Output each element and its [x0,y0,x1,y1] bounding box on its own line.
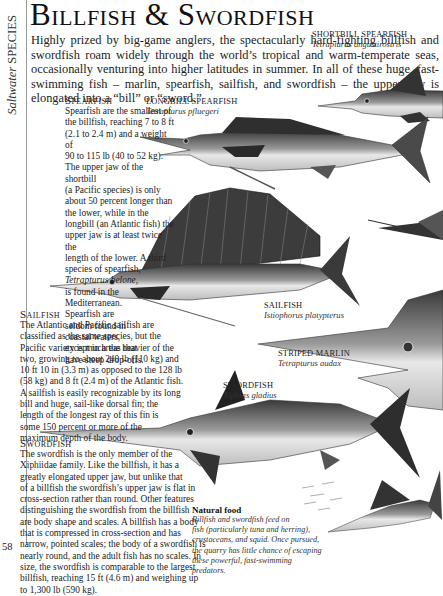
swordfish-heading: Swordfish [20,437,240,449]
natural-food-line: these powerful, fast-swimming predators. [192,556,322,576]
spearfish-line: about 50 percent longer than [65,196,175,207]
caption-longbill-spearfish: LONGBILL SPEARFISH Tetrapturus pfluegeri [146,97,237,116]
section-tab-italic: Saltwater [5,67,19,115]
caption-shortbill-spearfish: SHORTBILL SPEARFISH Tetrapturus angustir… [312,30,407,49]
caption-latin: Tetrapturus angustirostris [312,39,407,49]
caption-latin: Tetrapturus audax [278,358,350,368]
swordfish-line: of a billfish the swordfish’s upper jaw … [20,483,240,494]
natural-food-line: fish (particularly tuna and herring), [192,525,322,535]
caption-striped-marlin: STRIPED MARLIN Tetrapturus audax [278,349,350,368]
caption-latin: Istiophorus platypterus [264,310,344,320]
spearfish-line: species of spearfish, [65,264,175,275]
caption-latin: Xiphias gladius [223,390,277,400]
spearfish-line: the lower, while in the [65,208,175,219]
spearfish-line: upper jaw is at least twice the [65,230,175,253]
caption-name: LONGBILL SPEARFISH [146,97,237,106]
spearfish-line: (2.1 to 2.4 m) and a weight of [65,129,175,152]
swordfish-line: The swordfish is the only member of the [20,449,240,460]
sailfish-line: Pacific variety is much the heavier of t… [20,343,220,354]
caption-name: SWORDFISH [223,381,277,390]
caption-swordfish: SWORDFISH Xiphias gladius [223,381,277,400]
sailfish-line: A sailfish is easily recognizable by its… [20,388,220,399]
natural-food-caption: Natural food Billfish and swordfish feed… [192,505,322,576]
sailfish-line: bill and huge, sail-like dorsal fin; the [20,399,220,410]
sailfish-line: The Atlantic and Pacific sailfish are [20,320,220,331]
sailfish-line: length of the longest ray of this fin is [20,410,220,421]
swordfish-line: cross-section rather than round. Other f… [20,494,240,505]
caption-name: SAILFISH [264,301,344,310]
longbill-spearfish-illustration [140,117,432,185]
natural-food-line: the quarry has little chance of escaping [192,546,322,556]
spearfish-line: (a Pacific species) is only [65,185,175,196]
caption-name: STRIPED MARLIN [278,349,350,358]
spearfish-line: is found in the [65,287,175,298]
spearfish-line: longbill (an Atlantic fish) the [65,219,175,230]
swordfish-line: Xiphiidae family. Like the billfish, it … [20,460,240,471]
page-title: Billfish & Swordfish [30,0,314,33]
sailfish-heading: Sailfish [20,308,220,320]
swordfish-line: greatly elongated upper jaw, but unlike … [20,472,240,483]
caption-name: SHORTBILL SPEARFISH [312,30,407,39]
caption-latin: Tetrapturus pfluegeri [146,106,237,116]
sailfish-line: (58 kg) and 8 ft (2.4 m) of the Atlantic… [20,376,220,387]
spearfish-line: 90 to 115 lb (40 to 52 kg). [65,151,175,162]
sailfish-line: 10 ft 10 in (3.3 m) as opposed to the 12… [20,365,220,376]
spearfish-line: length of the lower. A third [65,253,175,264]
natural-food-line: Billfish and swordfish feed on [192,515,322,525]
section-tab: Saltwater SPECIES [1,6,23,124]
page-number: 58 [2,541,13,552]
natural-food-heading: Natural food [192,505,322,515]
spearfish-line: the billfish, reaching 7 to 8 ft [65,117,175,128]
spearfish-line: Tetrapturus belone, [65,275,175,286]
sailfish-line: two, growing to about 240 lb (110 kg) an… [20,354,220,365]
caption-sailfish: SAILFISH Istiophorus platypterus [264,301,344,320]
natural-food-line: crustaceans, and squid. Once pursued, [192,535,322,545]
sailfish-line: some 150 percent or more of the [20,422,220,433]
spearfish-line: The upper jaw of the shortbill [65,162,175,185]
sailfish-section: Sailfish The Atlantic and Pacific sailfi… [20,308,220,444]
sailfish-line: classified as the same species, but the [20,331,220,342]
swordfish-line: to 1,300 lb (590 kg). [20,585,240,596]
section-tab-caps: SPECIES [5,15,19,64]
